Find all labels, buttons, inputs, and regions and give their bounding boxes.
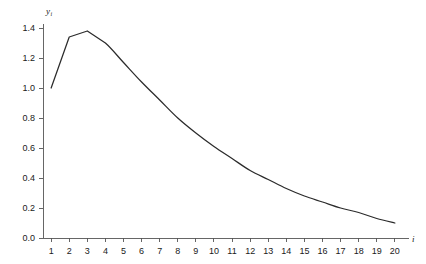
y-tick-label: 1.2: [22, 53, 35, 63]
axis-titles: yii: [45, 6, 415, 244]
data-series: [51, 31, 395, 223]
x-tick-label: 7: [157, 246, 162, 256]
axes: [43, 24, 409, 238]
y-tick-label: 0.2: [22, 203, 35, 213]
y-tick-label: 0.0: [22, 233, 35, 243]
x-tick-label: 4: [103, 246, 108, 256]
x-tick-label: 8: [175, 246, 180, 256]
series-line: [51, 31, 395, 223]
x-tick-label: 13: [263, 246, 273, 256]
x-tick-label: 6: [139, 246, 144, 256]
x-tick-label: 1: [49, 246, 54, 256]
y-tick-label: 0.8: [22, 113, 35, 123]
x-tick-label: 5: [121, 246, 126, 256]
y-tick-label: 1.0: [22, 83, 35, 93]
x-tick-label: 12: [245, 246, 255, 256]
tick-marks: [39, 28, 395, 242]
y-axis-label: yi: [45, 6, 53, 17]
y-tick-label: 0.4: [22, 173, 35, 183]
y-tick-label: 0.6: [22, 143, 35, 153]
x-tick-label: 10: [209, 246, 219, 256]
x-tick-label: 18: [354, 246, 364, 256]
x-tick-label: 16: [317, 246, 327, 256]
line-chart: 1234567891011121314151617181920 0.00.20.…: [0, 0, 426, 264]
x-tick-label: 19: [372, 246, 382, 256]
x-tick-label: 15: [299, 246, 309, 256]
y-tick-labels: 0.00.20.40.60.81.01.21.4: [22, 23, 35, 243]
x-tick-label: 17: [336, 246, 346, 256]
y-tick-label: 1.4: [22, 23, 35, 33]
x-axis-label: i: [412, 234, 415, 244]
x-tick-label: 3: [85, 246, 90, 256]
x-tick-label: 14: [281, 246, 291, 256]
x-tick-label: 9: [193, 246, 198, 256]
x-tick-label: 2: [67, 246, 72, 256]
x-tick-label: 20: [390, 246, 400, 256]
x-tick-labels: 1234567891011121314151617181920: [49, 246, 400, 256]
chart-figure: 1234567891011121314151617181920 0.00.20.…: [0, 0, 426, 264]
x-tick-label: 11: [227, 246, 236, 256]
